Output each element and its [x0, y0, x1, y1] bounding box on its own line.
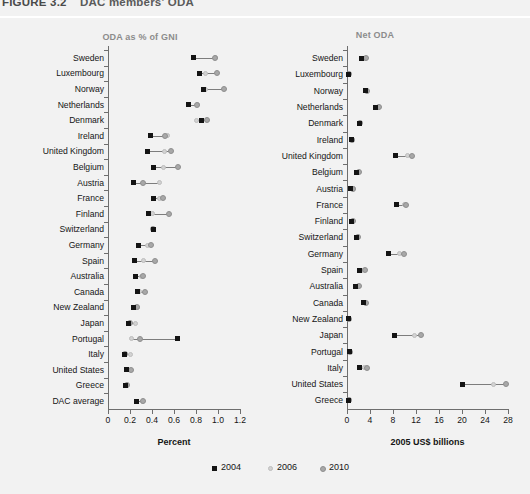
x-tick [485, 410, 486, 414]
data-point-2004-austria [131, 180, 136, 185]
category-label-canada: Canada [243, 298, 343, 308]
panel-oda-percent-gni: ODA as % of GNISwedenLuxembourgNorwayNet… [0, 0, 265, 494]
data-point-2004-sweden [191, 55, 196, 60]
panel-net-oda: Net ODASwedenLuxembourgNorwayNetherlands… [265, 0, 530, 494]
data-point-2004-italy [357, 365, 362, 370]
connector-line [463, 384, 506, 385]
y-tick [343, 229, 347, 230]
legend-label: 2010 [329, 462, 349, 472]
data-point-2006-denmark [194, 118, 199, 123]
category-label-ireland: Ireland [4, 131, 104, 141]
data-point-2004-belgium [354, 170, 359, 175]
x-tick-label: 28 [493, 415, 523, 425]
category-label-luxembourg: Luxembourg [4, 68, 104, 78]
y-tick [104, 81, 108, 82]
data-point-2004-luxembourg [197, 71, 202, 76]
y-tick [104, 97, 108, 98]
x-tick [393, 410, 394, 414]
data-point-2006-italy [128, 352, 133, 357]
data-point-2004-united-states [124, 367, 129, 372]
category-label-australia: Australia [243, 281, 343, 291]
category-label-spain: Spain [243, 265, 343, 275]
category-label-norway: Norway [243, 86, 343, 96]
category-label-united-kingdom: United Kingdom [243, 151, 343, 161]
y-tick [104, 268, 108, 269]
data-point-2004-denmark [357, 121, 362, 126]
x-tick [370, 410, 371, 414]
data-point-2010-ireland [162, 133, 168, 139]
data-point-2006-belgium [161, 165, 166, 170]
y-tick [104, 237, 108, 238]
category-label-italy: Italy [4, 349, 104, 359]
data-point-2004-netherlands [186, 102, 191, 107]
square-marker-icon [212, 466, 217, 471]
data-point-2004-united-states [460, 382, 465, 387]
circle-marker-icon [320, 466, 326, 472]
y-tick [104, 346, 108, 347]
data-point-2010-australia [140, 273, 146, 279]
y-tick [343, 213, 347, 214]
category-label-denmark: Denmark [243, 118, 343, 128]
x-tick [462, 410, 463, 414]
data-point-2010-japan [418, 332, 424, 338]
data-point-2004-sweden [359, 56, 364, 61]
data-point-2006-luxembourg [203, 71, 208, 76]
category-label-france: France [4, 193, 104, 203]
data-point-2004-denmark [199, 118, 204, 123]
data-point-2010-italy [364, 365, 370, 371]
data-point-2004-norway [201, 87, 206, 92]
data-point-2006-united-states [491, 382, 496, 387]
legend: 200420062010 [0, 462, 530, 478]
y-tick [343, 99, 347, 100]
data-point-2010-norway [221, 86, 227, 92]
data-point-2004-ireland [148, 133, 153, 138]
data-point-2010-france [403, 202, 409, 208]
y-tick [343, 115, 347, 116]
data-point-2004-australia [133, 274, 138, 279]
category-label-netherlands: Netherlands [4, 100, 104, 110]
data-point-2004-dac-average [134, 399, 139, 404]
data-point-2004-japan [126, 321, 131, 326]
data-point-2004-switzerland [151, 227, 156, 232]
data-point-2004-finland [146, 211, 151, 216]
category-label-sweden: Sweden [4, 53, 104, 63]
data-point-2004-france [394, 202, 399, 207]
category-label-united-states: United States [243, 379, 343, 389]
data-point-2010-germany [401, 251, 407, 257]
data-point-2010-spain [362, 267, 368, 273]
y-tick [104, 315, 108, 316]
data-point-2010-finland [166, 211, 172, 217]
data-point-2004-greece [346, 398, 351, 403]
y-tick [343, 262, 347, 263]
data-point-2004-italy [122, 352, 127, 357]
data-point-2010-belgium [175, 164, 181, 170]
category-label-switzerland: Switzerland [4, 224, 104, 234]
x-axis-title-oda-percent-gni: Percent [104, 437, 244, 447]
category-label-dac-average: DAC average [4, 396, 104, 406]
y-tick [343, 197, 347, 198]
y-tick [343, 343, 347, 344]
y-tick [104, 300, 108, 301]
y-tick [104, 175, 108, 176]
category-label-new-zealand: New Zealand [243, 314, 343, 324]
category-label-greece: Greece [243, 395, 343, 405]
category-label-japan: Japan [243, 330, 343, 340]
connector-line [133, 183, 159, 184]
category-label-belgium: Belgium [243, 167, 343, 177]
x-tick [174, 410, 175, 414]
data-point-2010-luxembourg [214, 70, 220, 76]
y-tick [343, 83, 347, 84]
y-tick [104, 331, 108, 332]
data-point-2006-japan [133, 321, 138, 326]
category-label-new-zealand: New Zealand [4, 302, 104, 312]
x-axis-title-net-oda: 2005 US$ billions [358, 437, 498, 447]
category-label-germany: Germany [243, 249, 343, 259]
data-point-2010-united-kingdom [409, 153, 415, 159]
y-tick [104, 190, 108, 191]
data-point-2006-united-kingdom [162, 149, 167, 154]
data-point-2004-spain [357, 268, 362, 273]
x-tick [218, 410, 219, 414]
category-label-norway: Norway [4, 84, 104, 94]
legend-label: 2004 [221, 462, 241, 472]
data-point-2004-netherlands [373, 105, 378, 110]
